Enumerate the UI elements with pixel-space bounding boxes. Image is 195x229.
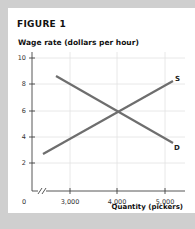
axis-break-icon (38, 187, 46, 195)
svg-text:4: 4 (22, 133, 26, 141)
svg-text:4,000: 4,000 (108, 198, 127, 206)
y-tick-labels: 10 8 6 4 2 (18, 54, 26, 167)
svg-text:6: 6 (22, 107, 26, 115)
svg-text:5,000: 5,000 (156, 198, 175, 206)
demand-label: D (174, 144, 180, 152)
svg-text:10: 10 (18, 54, 26, 62)
x-tick-labels: 0 3,000 4,000 5,000 (22, 198, 174, 206)
axes (29, 52, 185, 194)
svg-text:0: 0 (22, 198, 26, 206)
gridlines (32, 52, 185, 191)
svg-text:8: 8 (22, 80, 26, 88)
supply-label: S (175, 75, 180, 83)
supply-line (43, 81, 173, 154)
svg-text:3,000: 3,000 (61, 198, 80, 206)
svg-text:2: 2 (22, 159, 26, 167)
chart-plot: 10 8 6 4 2 0 3,000 4,000 5,000 S D (0, 0, 195, 229)
demand-line (56, 76, 173, 143)
